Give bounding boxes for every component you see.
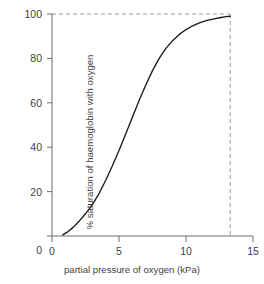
y-axis-ticks [47, 14, 52, 236]
y-axis-title: % saturation of haemoglobin with oxygen [85, 55, 95, 230]
x-axis-title: partial pressure of oxygen (kPa) [0, 265, 264, 275]
axis-lines-group [52, 14, 253, 236]
y-tick-label-100: 100 [16, 9, 42, 20]
y-tick-label-40: 40 [16, 142, 42, 153]
y-tick-label-20: 20 [16, 186, 42, 197]
oxygen-dissociation-chart: 100 80 60 40 20 0 0 5 10 15 % saturation… [0, 0, 264, 284]
x-tick-label-10: 10 [180, 246, 192, 257]
x-axis-ticks [52, 236, 253, 242]
reference-lines-group [52, 14, 230, 236]
x-tick-label-0: 0 [49, 246, 55, 257]
y-tick-label-0: 0 [16, 245, 42, 256]
x-tick-label-5: 5 [116, 246, 122, 257]
x-tick-label-15: 15 [247, 246, 259, 257]
y-tick-label-80: 80 [16, 53, 42, 64]
y-tick-label-60: 60 [16, 98, 42, 109]
